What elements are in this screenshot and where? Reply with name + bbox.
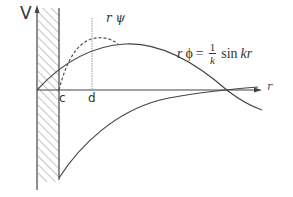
equation-rhs-arg: kr — [241, 46, 253, 62]
diagram-graphics — [0, 0, 293, 197]
wavefunction-label: r ψ — [106, 11, 125, 25]
equation-denominator: k — [210, 54, 215, 65]
equation-fraction: 1 k — [209, 42, 217, 65]
range-d-label: d — [88, 91, 96, 105]
equation-lhs-var: r — [177, 46, 182, 62]
v-axis-label: V — [20, 3, 32, 23]
equation-rhs-func: sin — [221, 46, 237, 62]
equation-numerator: 1 — [209, 42, 217, 54]
equation-equals: = — [196, 46, 204, 62]
hard-core-hatched-region — [38, 8, 59, 182]
free-wave-equation: r ϕ = 1 k sin kr — [177, 42, 252, 65]
hard-core-radius-label: c — [59, 91, 66, 105]
equation-lhs-func: ϕ — [185, 46, 192, 62]
r-axis-label: r — [267, 80, 272, 93]
potential-diagram: V c d r r ψ r ϕ = 1 k sin kr — [0, 0, 293, 197]
